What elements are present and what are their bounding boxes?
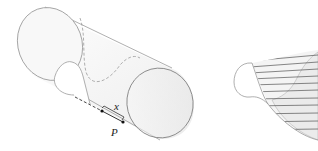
segment-start-dot — [100, 109, 103, 112]
cross-section — [234, 50, 318, 140]
label-x: x — [114, 101, 119, 112]
label-p: P — [111, 127, 118, 138]
point-p-dot — [121, 120, 124, 123]
diagram-figure — [0, 0, 318, 151]
cylinder — [7, 0, 201, 145]
